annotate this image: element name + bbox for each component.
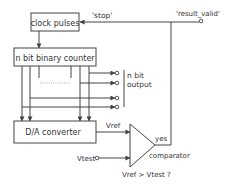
output-label-line1: n bit [127, 71, 144, 80]
dac-block: D/A converter [14, 121, 96, 143]
binary-counter-block: n bit binary counter [14, 48, 96, 66]
yes-label: yes [155, 135, 167, 143]
vref-label: Vref [106, 122, 121, 130]
result-valid-terminal [199, 19, 203, 23]
comparator-label: comparator [149, 152, 190, 160]
result-valid-label: 'result_valid' [176, 10, 220, 18]
clock-pulses-block: clock pulses [31, 13, 80, 31]
clock-pulses-label: clock pulses [31, 19, 80, 28]
dac-label: D/A converter [25, 128, 81, 137]
output-label-line2: output [127, 80, 152, 89]
vtest-label: Vtest [77, 155, 95, 163]
adc-block-diagram: clock pulses 'stop' 'result_valid' n bit… [0, 0, 230, 185]
comparator-symbol [130, 124, 155, 167]
binary-counter-label: n bit binary counter [15, 54, 95, 63]
output-taps [22, 71, 119, 109]
condition-label: Vref > Vtest ? [122, 171, 171, 179]
counter-dac-bus [22, 66, 89, 121]
stop-label: 'stop' [92, 11, 112, 20]
vtest-terminal [95, 156, 99, 160]
